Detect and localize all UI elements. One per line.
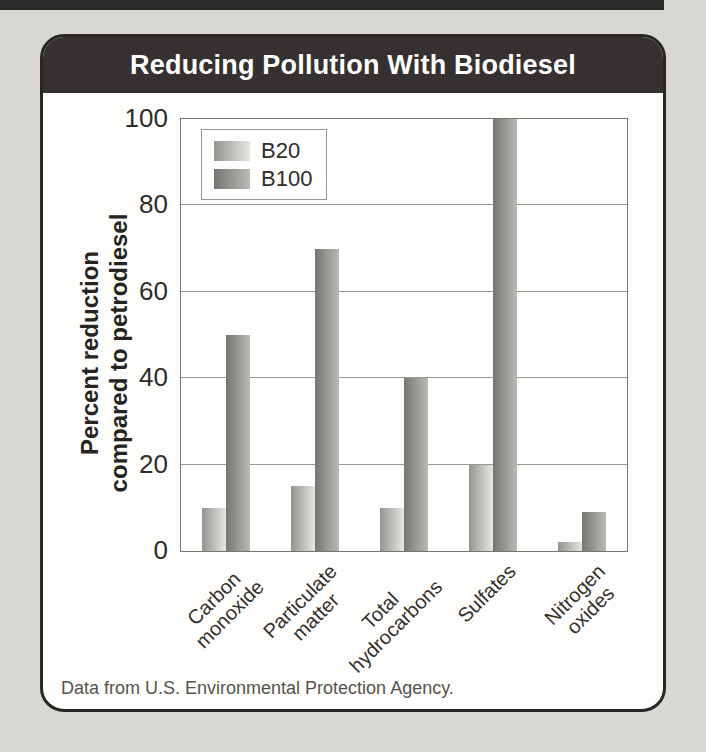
x-axis-label-total-hydrocarbons: Total hydrocarbons <box>329 560 446 677</box>
bar-b100-sulfates <box>493 119 517 551</box>
legend: B20B100 <box>201 129 327 200</box>
y-tick-label-100: 100 <box>43 105 168 131</box>
figure-card: Reducing Pollution With Biodiesel Percen… <box>40 34 666 712</box>
chart-area: Percent reduction compared to petrodiese… <box>43 93 663 709</box>
bar-b100-particulate-matter <box>315 249 339 551</box>
legend-row-b100: B100 <box>214 167 312 190</box>
bar-b20-total-hydrocarbons <box>380 508 404 551</box>
gridline-60 <box>181 291 627 292</box>
source-note: Data from U.S. Environmental Protection … <box>61 678 454 699</box>
y-tick-label-60: 60 <box>43 278 168 304</box>
bar-b100-total-hydrocarbons <box>404 378 428 551</box>
legend-row-b20: B20 <box>214 139 312 162</box>
y-tick-label-40: 40 <box>43 364 168 390</box>
bar-b100-nitrogen-oxides <box>582 512 606 551</box>
bar-b20-nitrogen-oxides <box>558 542 582 551</box>
page-edge-strip <box>0 0 664 10</box>
legend-label-b100: B100 <box>261 167 312 190</box>
legend-swatch-b100 <box>214 169 250 189</box>
y-tick-label-20: 20 <box>43 451 168 477</box>
x-axis-label-sulfates: Sulfates <box>453 560 520 627</box>
bar-b100-carbon-monoxide <box>226 335 250 551</box>
legend-label-b20: B20 <box>261 139 300 162</box>
y-tick-label-80: 80 <box>43 191 168 217</box>
x-axis-label-nitrogen-oxides: Nitrogen oxides <box>540 560 625 645</box>
legend-swatch-b20 <box>214 141 250 161</box>
y-tick-label-0: 0 <box>43 537 168 563</box>
gridline-80 <box>181 204 627 205</box>
bar-b20-sulfates <box>469 465 493 551</box>
plot-area: B20B100 <box>180 118 628 552</box>
figure-header: Reducing Pollution With Biodiesel <box>43 37 663 93</box>
bar-b20-carbon-monoxide <box>202 508 226 551</box>
y-axis-ticks: 020406080100 <box>43 118 168 550</box>
x-axis-label-carbon-monoxide: Carbon monoxide <box>175 560 267 652</box>
bar-b20-particulate-matter <box>291 486 315 551</box>
chart-title: Reducing Pollution With Biodiesel <box>130 50 576 81</box>
